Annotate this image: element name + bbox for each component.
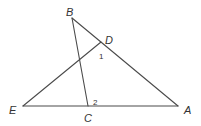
segment-ED: [23, 42, 101, 106]
point-label-C: C: [84, 112, 92, 124]
point-label-D: D: [105, 34, 113, 46]
geometry-diagram: B D E C A 1 2: [0, 0, 201, 126]
point-label-E: E: [9, 104, 17, 116]
point-label-A: A: [183, 104, 191, 116]
angle-label-2: 2: [93, 98, 98, 107]
point-label-B: B: [66, 6, 73, 18]
segment-BC: [72, 18, 88, 106]
segment-BA: [72, 18, 178, 106]
angle-label-1: 1: [99, 52, 104, 61]
